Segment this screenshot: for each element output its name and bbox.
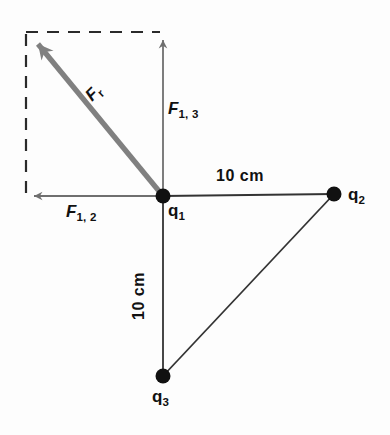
charge-label-q2: q2 bbox=[348, 186, 365, 203]
diagram-canvas bbox=[0, 0, 390, 435]
segment-q2-q3 bbox=[163, 194, 334, 376]
force-diagram: F1, 3 F1, 2 Fr q1 q2 q3 10 cm 10 cm bbox=[0, 0, 390, 435]
segment-q1-q2 bbox=[163, 194, 334, 196]
charge-label-q1: q1 bbox=[168, 202, 185, 219]
force-label-f13: F1, 3 bbox=[168, 100, 199, 117]
force-label-f12: F1, 2 bbox=[66, 203, 97, 220]
distance-label-q1-q3: 10 cm bbox=[131, 272, 147, 320]
charge-node-q3 bbox=[156, 369, 171, 384]
charge-node-q2 bbox=[327, 187, 342, 202]
force-vector-resultant bbox=[38, 44, 163, 196]
distance-label-q1-q2: 10 cm bbox=[216, 168, 264, 184]
charge-label-q3: q3 bbox=[152, 388, 169, 405]
